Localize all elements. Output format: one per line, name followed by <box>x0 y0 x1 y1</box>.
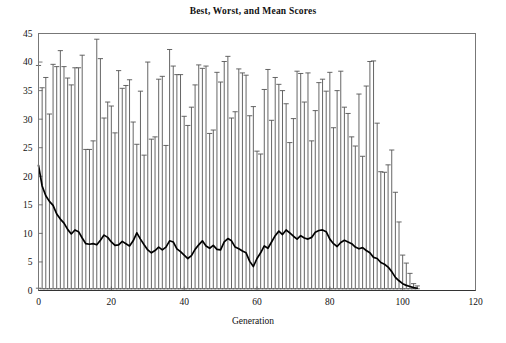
plot-area: 051015202530354045020406080100120 <box>0 0 506 343</box>
error-bar <box>265 69 270 288</box>
error-bar <box>87 149 92 288</box>
x-tick-label: 0 <box>36 297 41 307</box>
y-tick-label: 40 <box>23 57 33 67</box>
y-tick-label: 10 <box>23 229 33 239</box>
error-bar <box>131 122 136 289</box>
error-bar <box>291 119 296 289</box>
error-bar <box>273 77 278 288</box>
error-bar <box>309 141 314 289</box>
error-bar <box>382 172 387 289</box>
error-bar <box>127 80 132 289</box>
error-bar <box>240 73 245 289</box>
y-tick-label: 45 <box>23 29 33 39</box>
error-bar <box>280 91 285 289</box>
error-bar <box>54 67 59 289</box>
error-bar <box>185 125 190 288</box>
error-bar <box>101 118 106 289</box>
y-tick-label: 30 <box>23 115 33 125</box>
error-bar <box>284 104 289 289</box>
error-bar <box>349 137 354 289</box>
error-bar <box>233 112 238 289</box>
error-bar <box>338 71 343 289</box>
error-bar <box>360 156 365 288</box>
error-bar <box>174 75 179 289</box>
error-bar <box>276 84 281 288</box>
error-bar <box>120 88 125 288</box>
x-tick-label: 80 <box>325 297 335 307</box>
x-tick-label: 20 <box>107 297 117 307</box>
y-tick-label: 0 <box>28 286 33 296</box>
error-bar <box>229 118 234 289</box>
error-bar <box>364 86 369 289</box>
x-tick-label: 100 <box>396 297 411 307</box>
error-bar <box>302 102 307 289</box>
error-bar <box>83 149 88 288</box>
error-bar <box>207 133 212 288</box>
error-bar <box>69 85 74 289</box>
error-bar-group <box>36 39 420 289</box>
error-bar <box>189 107 194 289</box>
error-bar <box>356 94 361 289</box>
error-bar <box>389 150 394 289</box>
error-bar <box>142 155 147 289</box>
error-bar <box>196 65 201 289</box>
error-bar <box>324 91 329 289</box>
error-bar <box>61 67 66 289</box>
error-bar <box>171 66 176 289</box>
error-bar <box>353 146 358 289</box>
error-bar <box>254 151 259 289</box>
error-bar <box>335 91 340 289</box>
error-bar <box>258 154 263 289</box>
error-bar <box>98 59 103 289</box>
error-bar <box>134 144 139 288</box>
error-bar <box>50 64 55 288</box>
error-bar <box>105 102 110 289</box>
error-bar <box>327 72 332 288</box>
error-bar <box>342 107 347 289</box>
error-bar <box>298 73 303 288</box>
chart-figure: Best, Worst, and Mean Scores 05101520253… <box>0 0 506 343</box>
y-tick-label: 20 <box>23 172 33 182</box>
error-bar <box>152 137 157 289</box>
error-bar <box>225 56 230 288</box>
error-bar <box>236 69 241 289</box>
y-tick-label: 15 <box>23 200 33 210</box>
error-bar <box>123 85 128 288</box>
error-bar <box>167 49 172 288</box>
error-bar <box>313 111 318 289</box>
error-bar <box>375 123 380 289</box>
error-bar <box>192 85 197 289</box>
error-bar <box>178 75 183 289</box>
error-bar <box>72 68 77 289</box>
error-bar <box>203 66 208 289</box>
x-tick-label: 120 <box>468 297 483 307</box>
error-bar <box>331 128 336 289</box>
error-bar <box>145 62 150 289</box>
y-tick-label: 35 <box>23 86 33 96</box>
error-bar <box>316 83 321 289</box>
x-tick-label: 40 <box>179 297 189 307</box>
error-bar <box>345 113 350 288</box>
error-bar <box>211 130 216 289</box>
error-bar <box>320 79 325 289</box>
x-tick-label: 60 <box>252 297 262 307</box>
error-bar <box>218 82 223 289</box>
error-bar <box>91 141 96 289</box>
error-bar <box>200 68 205 288</box>
error-bar <box>116 71 121 289</box>
error-bar <box>138 91 143 289</box>
x-axis-title: Generation <box>0 316 506 326</box>
error-bar <box>112 133 117 289</box>
y-tick-label: 25 <box>23 143 33 153</box>
error-bar <box>160 76 165 288</box>
y-tick-label: 5 <box>28 257 33 267</box>
error-bar <box>305 73 310 289</box>
error-bar <box>269 120 274 288</box>
error-bar <box>76 68 81 289</box>
error-bar <box>222 61 227 288</box>
error-bar <box>378 172 383 289</box>
error-bar <box>156 79 161 289</box>
error-bar <box>43 77 48 288</box>
error-bar <box>262 89 267 288</box>
error-bar <box>58 51 63 289</box>
